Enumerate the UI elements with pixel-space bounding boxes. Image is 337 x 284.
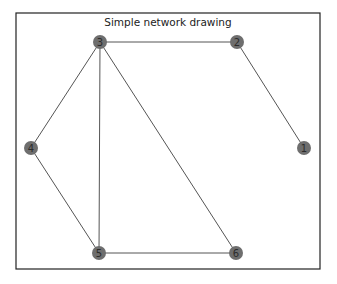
node-4: 4 (24, 141, 38, 155)
node-1: 1 (297, 141, 311, 155)
node-label: 4 (28, 143, 34, 154)
edge-3-6 (100, 42, 236, 253)
network-figure: Simple network drawing 123456 (0, 0, 337, 284)
node-label: 3 (97, 37, 103, 48)
edge-2-1 (237, 42, 304, 148)
edge-4-5 (31, 148, 99, 253)
node-2: 2 (230, 35, 244, 49)
node-5: 5 (92, 246, 106, 260)
edge-3-5 (99, 42, 100, 253)
axes-frame (16, 13, 320, 269)
edges-layer (31, 42, 304, 253)
node-label: 6 (233, 248, 239, 259)
edge-3-4 (31, 42, 100, 148)
figure-title: Simple network drawing (104, 16, 231, 28)
node-label: 2 (234, 37, 240, 48)
node-label: 5 (96, 248, 102, 259)
node-label: 1 (301, 143, 307, 154)
node-6: 6 (229, 246, 243, 260)
node-3: 3 (93, 35, 107, 49)
